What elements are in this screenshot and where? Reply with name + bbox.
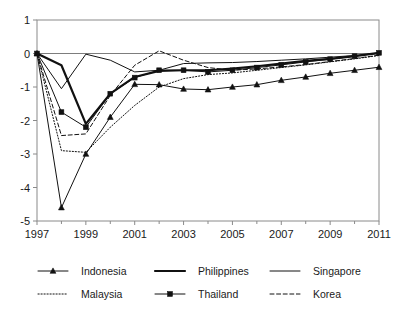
legend-label: Thailand: [198, 288, 238, 300]
x-tick-label: 2009: [318, 228, 342, 240]
legend-item-korea[interactable]: Korea: [270, 288, 341, 300]
y-tick-label: 0: [24, 48, 30, 60]
series-korea: [37, 51, 379, 136]
series-lines: [34, 50, 382, 210]
data-point-marker: [303, 59, 308, 64]
y-tick-label: -3: [20, 148, 30, 160]
series-malaysia: [37, 54, 379, 153]
legend-label: Korea: [313, 288, 341, 300]
data-point-marker: [168, 292, 173, 297]
legend-item-philippines[interactable]: Philippines: [155, 265, 249, 277]
legend-label: Philippines: [198, 265, 249, 277]
y-tick-label: -1: [20, 81, 30, 93]
data-point-marker: [59, 205, 65, 210]
y-axis-labels: 10-1-2-3-4-5: [20, 14, 30, 227]
legend-item-thailand[interactable]: Thailand: [155, 288, 238, 300]
data-point-marker: [181, 68, 186, 73]
data-point-marker: [376, 64, 382, 69]
legend-label: Indonesia: [81, 265, 127, 277]
x-tick-label: 2007: [269, 228, 293, 240]
chart-legend: IndonesiaPhilippinesSingaporeMalaysiaTha…: [38, 265, 361, 300]
legend-item-indonesia[interactable]: Indonesia: [38, 265, 127, 277]
y-tick-label: -4: [20, 182, 30, 194]
x-tick-label: 1999: [74, 228, 98, 240]
x-tick-label: 2001: [122, 228, 146, 240]
legend-label: Singapore: [313, 265, 361, 277]
legend-label: Malaysia: [81, 288, 123, 300]
data-point-marker: [132, 75, 137, 80]
x-tick-label: 2005: [220, 228, 244, 240]
y-tick-label: -2: [20, 115, 30, 127]
x-tick-label: 2003: [171, 228, 195, 240]
data-point-marker: [157, 68, 162, 73]
legend-item-singapore[interactable]: Singapore: [270, 265, 361, 277]
y-tick-label: 1: [24, 14, 30, 26]
x-axis-ticks: [37, 221, 379, 225]
x-tick-label: 2011: [367, 228, 391, 240]
y-axis-ticks: [33, 20, 37, 221]
y-tick-label: -5: [20, 215, 30, 227]
data-point-marker: [83, 125, 88, 130]
chart-figure: 10-1-2-3-4-5 199719992001200320052007200…: [0, 0, 397, 318]
x-axis-labels: 19971999200120032005200720092011: [25, 228, 391, 240]
line-chart: 10-1-2-3-4-5 199719992001200320052007200…: [0, 0, 397, 318]
data-point-marker: [59, 110, 64, 115]
series-line: [37, 54, 379, 153]
series-line: [37, 51, 379, 136]
x-tick-label: 1997: [25, 228, 49, 240]
legend-item-malaysia[interactable]: Malaysia: [38, 288, 123, 300]
data-point-marker: [206, 70, 211, 75]
data-point-marker: [377, 50, 382, 55]
